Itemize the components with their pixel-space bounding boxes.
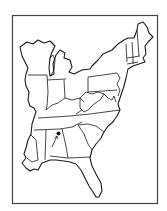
eastern-us-map: [0, 0, 167, 211]
location-marker: [57, 132, 61, 136]
